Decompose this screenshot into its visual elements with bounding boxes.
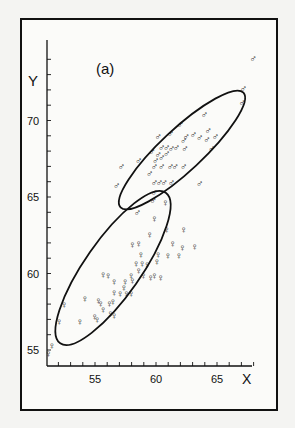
female-point: ♀ (169, 238, 177, 249)
female-point: ♀ (146, 229, 154, 240)
y-tick-label: 60 (27, 268, 39, 280)
female-point: ♀ (61, 299, 69, 310)
x-tick-label: 55 (89, 373, 101, 385)
female-point: ♀ (111, 310, 119, 321)
female-point: ♀ (143, 259, 151, 270)
female-point: ♀ (151, 213, 159, 224)
y-tick-label: 65 (27, 191, 39, 203)
male-point: ♂ (240, 83, 248, 94)
male-point: ♂ (180, 161, 188, 172)
female-point: ♀ (128, 288, 136, 299)
scatter-plot: 55606570 556065 Y X (a) ♂♂♂♂♂♂♂♂♂♂♂♂♂♂♂♂… (0, 0, 295, 428)
male-point: ♂ (172, 161, 180, 172)
y-tick-labels: 55606570 (27, 115, 39, 357)
female-point: ♀ (162, 197, 170, 208)
female-point: ♀ (180, 224, 188, 235)
female-point: ♀ (81, 293, 89, 304)
x-axis-label: X (242, 371, 252, 387)
chart-title: (a) (96, 60, 114, 77)
female-point: ♀ (93, 314, 101, 325)
male-point: ♂ (135, 155, 143, 166)
male-point: ♂ (158, 161, 166, 172)
male-point: ♂ (154, 131, 162, 142)
female-point: ♀ (179, 242, 187, 253)
male-point: ♂ (212, 131, 220, 142)
x-tick-label: 60 (150, 373, 162, 385)
male-point: ♂ (168, 177, 176, 188)
female-point: ♀ (109, 296, 117, 307)
male-point: ♂ (150, 195, 158, 206)
female-point: ♀ (135, 238, 143, 249)
male-point: ♂ (118, 161, 126, 172)
male-point: ♂ (176, 119, 184, 130)
male-point: ♂ (250, 53, 258, 64)
male-point: ♂ (181, 143, 189, 154)
y-axis-label: Y (28, 72, 38, 89)
male-point: ♂ (173, 142, 181, 153)
y-tick-label: 70 (27, 115, 39, 127)
male-point: ♂ (134, 207, 142, 218)
male-point: ♂ (201, 109, 209, 120)
female-point: ♀ (111, 276, 119, 287)
x-tick-label: 65 (211, 373, 223, 385)
female-point: ♀ (163, 224, 171, 235)
female-point: ♀ (164, 250, 172, 261)
male-point: ♂ (196, 178, 204, 189)
female-point: ♀ (191, 241, 199, 252)
y-tick-label: 55 (27, 344, 39, 356)
female-point: ♀ (76, 316, 84, 327)
male-point: ♂ (208, 143, 216, 154)
male-point: ♂ (239, 97, 247, 108)
x-tick-labels: 556065 (89, 373, 223, 385)
female-point: ♀ (129, 275, 137, 286)
female-point: ♀ (45, 348, 53, 359)
data-points: ♂♂♂♂♂♂♂♂♂♂♂♂♂♂♂♂♂♂♂♂♂♂♂♂♂♂♂♂♂♂♂♂♂♂♂♂♂♂♂♂… (45, 53, 257, 359)
male-point: ♂ (113, 180, 121, 191)
female-point: ♀ (157, 272, 165, 283)
male-point: ♂ (167, 128, 175, 139)
female-point: ♀ (154, 249, 162, 260)
male-point: ♂ (163, 148, 171, 159)
female-point: ♀ (56, 316, 64, 327)
